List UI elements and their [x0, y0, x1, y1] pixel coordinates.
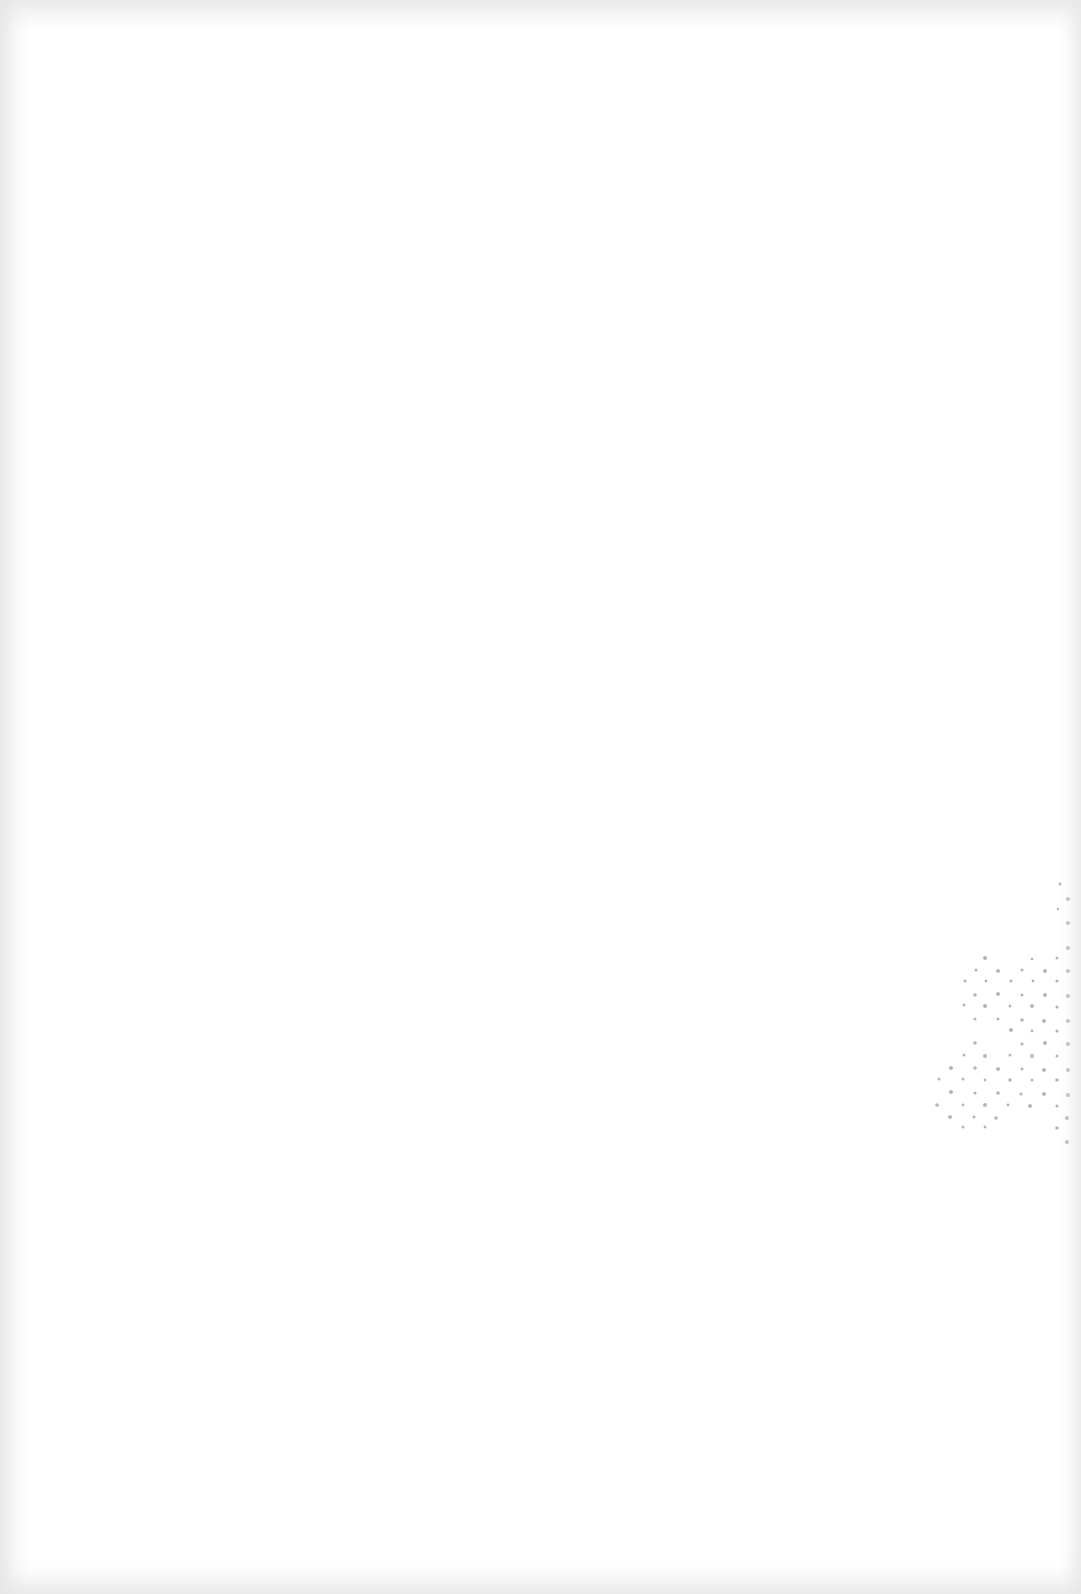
scan-edge-shading [0, 0, 1081, 1594]
blank-page [0, 0, 1081, 1594]
dot-pattern-bleed-through [0, 0, 1081, 1594]
